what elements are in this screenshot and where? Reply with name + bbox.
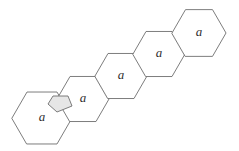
cell-label-3: a xyxy=(118,67,125,82)
cell-label-4: a xyxy=(156,45,163,60)
diagram-canvas: Hexagon chain diagram A diagonal chain o… xyxy=(0,0,239,151)
cell-label-1: a xyxy=(39,109,46,124)
cell-label-5: a xyxy=(196,24,203,39)
cell-label-2: a xyxy=(80,90,87,105)
hexagon-chain-diagram: Hexagon chain diagram A diagonal chain o… xyxy=(0,0,239,151)
